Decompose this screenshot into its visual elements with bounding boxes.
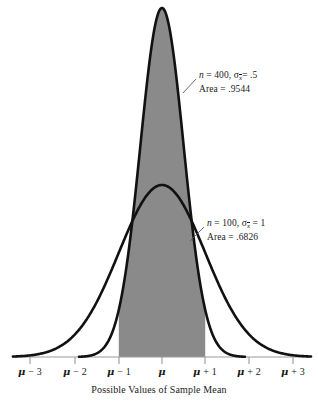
- leader-line-n400: [183, 79, 196, 93]
- mu-symbol: μ: [63, 366, 71, 377]
- annotation-n400-n-value: = 400,: [204, 70, 234, 80]
- tick-offset: − 3: [26, 366, 42, 377]
- mu-symbol: μ: [237, 366, 245, 377]
- shaded-area-region: [119, 8, 205, 357]
- annotation-n400-area: Area = .9544: [199, 83, 257, 96]
- annotation-n100-area: Area = .6826: [207, 231, 265, 244]
- annotation-n100-n-value: = 100,: [212, 218, 242, 228]
- x-tick-label: μ − 2: [63, 366, 87, 377]
- x-tick-label: μ − 1: [107, 366, 131, 377]
- annotation-n400-sigma-subscript: x: [239, 74, 242, 83]
- tick-offset: − 1: [115, 366, 131, 377]
- tick-offset: + 1: [201, 366, 217, 377]
- x-tick-label: μ + 1: [193, 366, 217, 377]
- mu-symbol: μ: [158, 366, 166, 377]
- tick-offset: + 2: [245, 366, 261, 377]
- annotation-n100-sigma-subscript: x: [247, 222, 250, 231]
- annotation-n100: n = 100, σx = 1 Area = .6826: [207, 217, 265, 244]
- mu-symbol: μ: [281, 366, 289, 377]
- x-axis-ticks: [30, 357, 293, 364]
- annotation-n100-sigma-value: = 1: [250, 218, 265, 228]
- x-tick-label: μ + 3: [281, 366, 305, 377]
- x-tick-label: μ − 3: [18, 366, 42, 377]
- mu-symbol: μ: [18, 366, 26, 377]
- mu-symbol: μ: [107, 366, 115, 377]
- annotation-n400: n = 400, σx= .5 Area = .9544: [199, 69, 257, 96]
- sampling-distribution-figure: n = 400, σx= .5 Area = .9544 n = 100, σx…: [0, 0, 318, 404]
- tick-offset: − 2: [71, 366, 87, 377]
- annotation-n400-params: n = 400, σx= .5: [199, 69, 257, 83]
- x-tick-label: μ + 2: [237, 366, 261, 377]
- mu-symbol: μ: [193, 366, 201, 377]
- tick-offset: + 3: [289, 366, 305, 377]
- distribution-plot: [0, 0, 318, 404]
- x-axis-title: Possible Values of Sample Mean: [0, 384, 318, 395]
- annotation-n400-sigma-value: = .5: [242, 70, 257, 80]
- x-tick-label: μ: [158, 366, 166, 377]
- annotation-n100-params: n = 100, σx = 1: [207, 217, 265, 231]
